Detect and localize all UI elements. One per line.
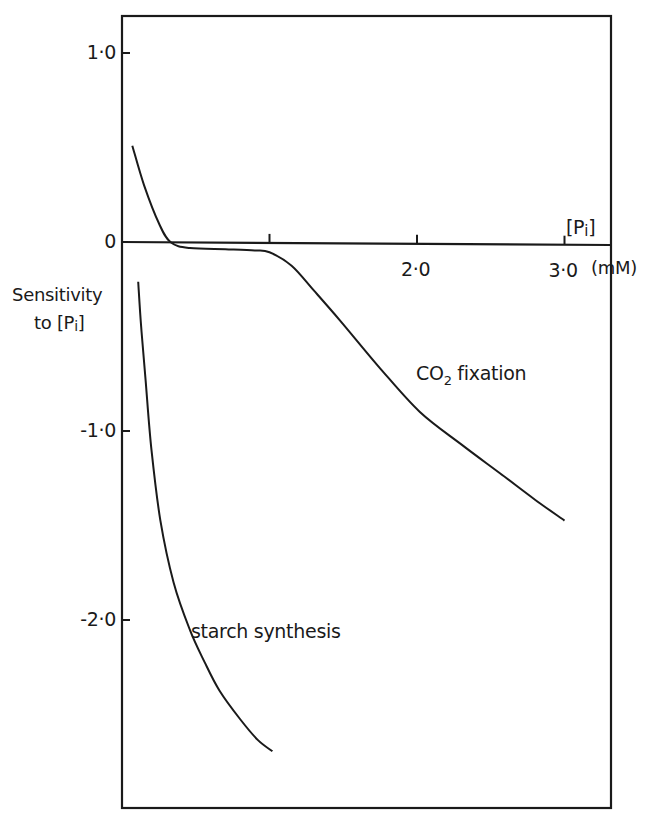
x-tick-label: 3·0 <box>549 261 578 280</box>
y-axis-title-line1: Sensitivity <box>12 286 102 304</box>
y-axis-title-line2: to [Pi] <box>34 314 85 332</box>
y-tick-label: -2·0 <box>80 610 116 629</box>
x-axis-name: [Pi] <box>566 218 595 237</box>
starch-synthesis-curve <box>138 282 272 752</box>
y-tick-label: -1·0 <box>80 421 116 440</box>
plot-frame <box>122 16 611 808</box>
co2-fixation-label: CO2 fixation <box>416 364 526 383</box>
y-tick-label: 0 <box>104 232 116 251</box>
y-axis-ticks <box>122 53 130 620</box>
y-tick-label: 1·0 <box>87 43 116 62</box>
co2-fixation-curve <box>132 146 564 521</box>
x-axis-unit: (mM) <box>591 259 637 277</box>
chart-canvas <box>0 0 668 824</box>
x-tick-label: 2·0 <box>401 260 430 279</box>
starch-synthesis-label: starch synthesis <box>191 622 341 641</box>
x-axis-zero-line <box>122 242 611 245</box>
